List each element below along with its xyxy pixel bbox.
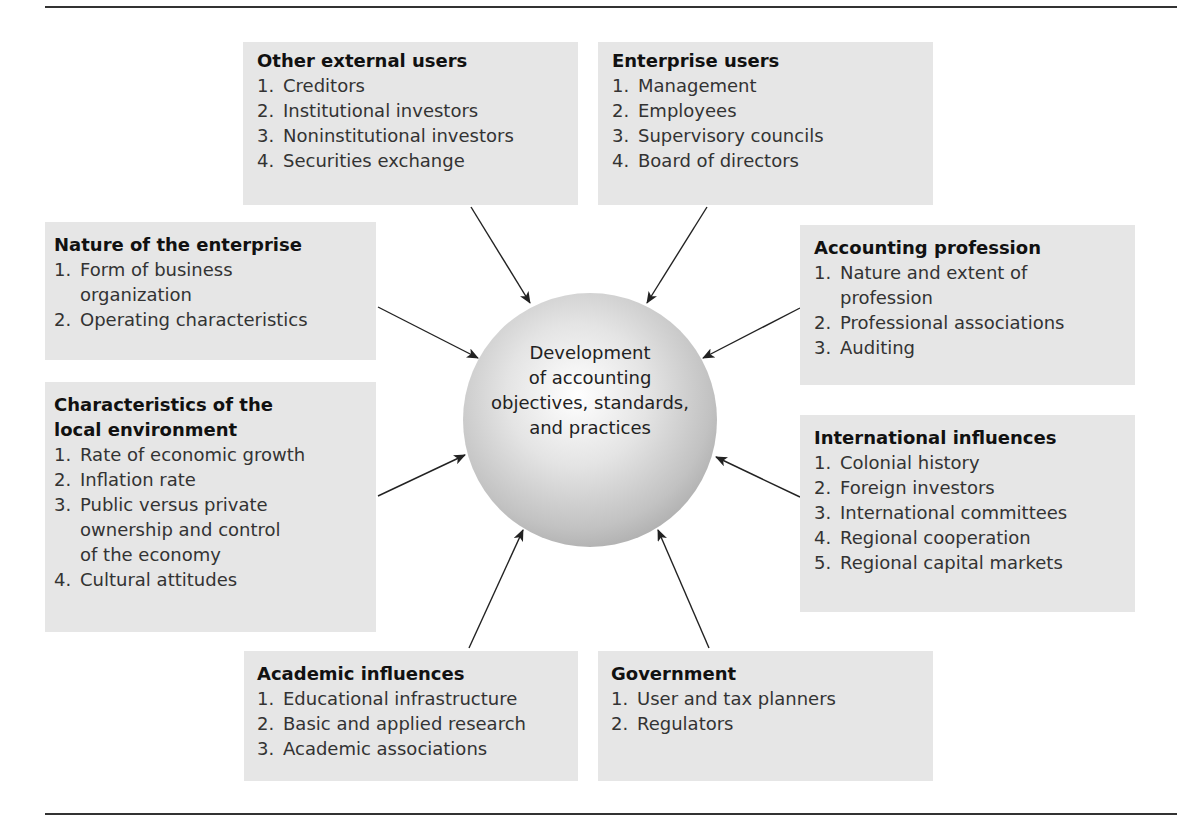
- arrow-other-external-users: [471, 207, 530, 303]
- list-item: 2.Institutional investors: [257, 98, 578, 123]
- box-title: Characteristics of the local environment: [54, 392, 376, 442]
- list-item: 3.Academic associations: [257, 736, 578, 761]
- box-accounting-profession: Accounting profession 1.Nature and exten…: [800, 225, 1135, 385]
- arrow-enterprise-users: [647, 207, 707, 303]
- list-item: 4.Board of directors: [612, 148, 933, 173]
- box-government: Government 1.User and tax planners 2.Reg…: [598, 651, 933, 781]
- list-item: 1.Creditors: [257, 73, 578, 98]
- list-item: 3.Auditing: [814, 335, 1135, 360]
- arrow-accounting-profession: [703, 308, 800, 358]
- box-local-environment: Characteristics of the local environment…: [45, 382, 376, 632]
- list-item: 4.Regional cooperation: [814, 525, 1135, 550]
- box-title: Enterprise users: [612, 48, 933, 73]
- arrow-government: [658, 530, 709, 648]
- list-item: 3.Noninstitutional investors: [257, 123, 578, 148]
- center-label: Development of accounting objectives, st…: [463, 340, 717, 440]
- list-item: 1.Rate of economic growth: [54, 442, 376, 467]
- list-item: 4.Securities exchange: [257, 148, 578, 173]
- list-item: 1.User and tax planners: [611, 686, 933, 711]
- list-item: 2.Operating characteristics: [54, 307, 376, 332]
- box-title: Accounting profession: [814, 235, 1135, 260]
- arrow-international-influences: [716, 457, 800, 497]
- list-item: 5.Regional capital markets: [814, 550, 1135, 575]
- list-item: 2.Foreign investors: [814, 475, 1135, 500]
- box-title: Other external users: [257, 48, 578, 73]
- list-item: 1.Form of business organization: [54, 257, 376, 307]
- list-item: 2.Inflation rate: [54, 467, 376, 492]
- arrow-academic-influences: [469, 530, 523, 648]
- box-nature-of-enterprise: Nature of the enterprise 1.Form of busin…: [45, 222, 376, 360]
- list-item: 1.Colonial history: [814, 450, 1135, 475]
- box-title: Academic influences: [257, 661, 578, 686]
- box-academic-influences: Academic influences 1.Educational infras…: [244, 651, 578, 781]
- list-item: 3.International committees: [814, 500, 1135, 525]
- box-other-external-users: Other external users 1.Creditors 2.Insti…: [243, 42, 578, 205]
- box-title: International influences: [814, 425, 1135, 450]
- list-item: 2.Regulators: [611, 711, 933, 736]
- box-enterprise-users: Enterprise users 1.Management 2.Employee…: [598, 42, 933, 205]
- list-item: 3.Public versus private ownership and co…: [54, 492, 376, 567]
- list-item: 4.Cultural attitudes: [54, 567, 376, 592]
- list-item: 1.Management: [612, 73, 933, 98]
- arrow-local-environment: [378, 455, 465, 496]
- box-title: Nature of the enterprise: [54, 232, 376, 257]
- list-item: 2.Employees: [612, 98, 933, 123]
- box-title: Government: [611, 661, 933, 686]
- box-international-influences: International influences 1.Colonial hist…: [800, 415, 1135, 612]
- list-item: 2.Basic and applied research: [257, 711, 578, 736]
- list-item: 3.Supervisory councils: [612, 123, 933, 148]
- list-item: 1.Nature and extent of profession: [814, 260, 1135, 310]
- list-item: 2.Professional associations: [814, 310, 1135, 335]
- list-item: 1.Educational infrastructure: [257, 686, 578, 711]
